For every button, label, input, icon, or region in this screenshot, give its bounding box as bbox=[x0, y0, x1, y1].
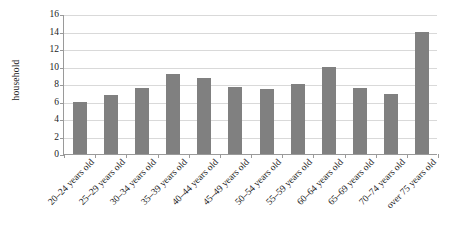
bar[interactable] bbox=[135, 88, 149, 155]
bar[interactable] bbox=[384, 94, 398, 154]
y-axis-tick-label: 16 bbox=[37, 10, 59, 20]
y-axis-tick-label: 6 bbox=[37, 98, 59, 108]
x-axis-tick-mark bbox=[438, 154, 439, 158]
bar-slot bbox=[126, 15, 157, 154]
y-axis-tick-label: 10 bbox=[37, 63, 59, 73]
bar-slot bbox=[376, 15, 407, 154]
bar-slot bbox=[189, 15, 220, 154]
bar-chart: household 0246810121416 20–24 years old2… bbox=[0, 0, 455, 239]
bar[interactable] bbox=[291, 84, 305, 154]
bar-slot bbox=[95, 15, 126, 154]
x-axis-tick-labels: 20–24 years old25–29 years old30–34 year… bbox=[63, 157, 437, 239]
bar-slot bbox=[64, 15, 95, 154]
y-axis-tick-labels: 0246810121416 bbox=[33, 15, 59, 155]
bar-slot bbox=[220, 15, 251, 154]
bar[interactable] bbox=[228, 87, 242, 154]
bar[interactable] bbox=[415, 32, 429, 154]
bar[interactable] bbox=[353, 88, 367, 154]
y-axis-title: household bbox=[6, 0, 26, 160]
y-axis-tick-label: 2 bbox=[37, 133, 59, 143]
y-axis-tick-label: 14 bbox=[37, 28, 59, 38]
bar[interactable] bbox=[322, 67, 336, 154]
y-axis-tick-label: 12 bbox=[37, 45, 59, 55]
bar-slot bbox=[282, 15, 313, 154]
y-axis-tick-label: 0 bbox=[37, 150, 59, 160]
bar-slot bbox=[158, 15, 189, 154]
bar[interactable] bbox=[166, 74, 180, 154]
bar-slot bbox=[345, 15, 376, 154]
bar[interactable] bbox=[260, 89, 274, 154]
bar-slot bbox=[407, 15, 438, 154]
y-axis-tick-label: 8 bbox=[37, 80, 59, 90]
bar-slot bbox=[313, 15, 344, 154]
bar[interactable] bbox=[73, 102, 87, 155]
y-axis-title-label: household bbox=[11, 60, 21, 101]
bar[interactable] bbox=[197, 78, 211, 154]
plot-area bbox=[63, 15, 437, 155]
bar-slot bbox=[251, 15, 282, 154]
y-axis-tick-label: 4 bbox=[37, 115, 59, 125]
bar[interactable] bbox=[104, 95, 118, 155]
